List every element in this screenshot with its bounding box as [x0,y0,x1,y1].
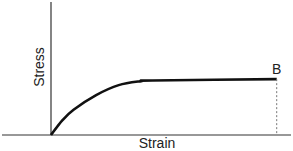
y-axis-label: Stress [31,47,47,87]
point-B-label: B [272,61,281,77]
stress-strain-chart: Stress Strain B [0,0,293,151]
stress-strain-curve [51,79,277,135]
x-axis-label: Strain [139,135,176,151]
